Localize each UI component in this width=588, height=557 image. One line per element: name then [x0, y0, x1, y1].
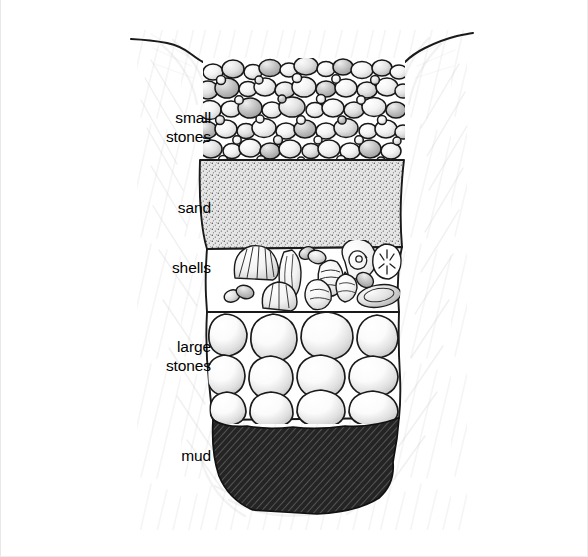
- layer-large-stones: [206, 312, 400, 428]
- page-canvas: small stones sand shells large stones mu…: [0, 0, 588, 557]
- sediment-cross-section-figure: [1, 0, 588, 557]
- layer-small-stones: [197, 57, 411, 170]
- layer-mud: [213, 418, 399, 514]
- layer-sand: [200, 160, 404, 249]
- sand-dollar-shell: [373, 244, 401, 279]
- layer-shells: [206, 239, 403, 312]
- whelk-shell: [305, 280, 331, 310]
